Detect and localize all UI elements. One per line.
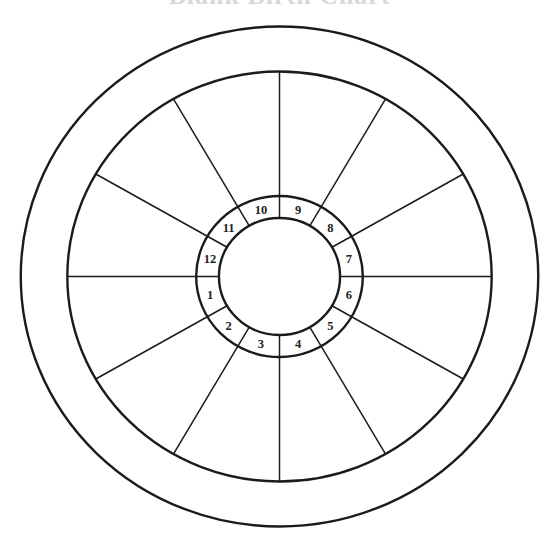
house-number-8: 8 xyxy=(327,221,333,235)
house-number-11: 11 xyxy=(223,221,235,235)
house-number-7: 7 xyxy=(346,252,352,266)
wheel-group: 123456789101112 xyxy=(21,27,539,527)
house-number-12: 12 xyxy=(204,252,217,266)
house-number-3: 3 xyxy=(258,337,264,351)
birth-chart-wheel: 123456789101112 xyxy=(0,0,559,554)
house-number-10: 10 xyxy=(255,203,268,217)
house-number-6: 6 xyxy=(346,288,352,302)
house-number-5: 5 xyxy=(327,319,333,333)
house-number-9: 9 xyxy=(295,203,301,217)
house-number-1: 1 xyxy=(207,288,213,302)
house-ring-inner-circle xyxy=(219,218,340,335)
house-number-2: 2 xyxy=(226,319,232,333)
house-number-4: 4 xyxy=(295,337,302,351)
